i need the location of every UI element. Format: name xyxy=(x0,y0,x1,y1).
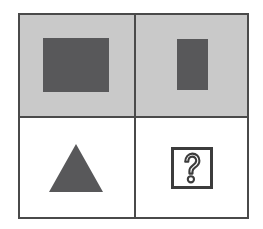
rectangle-shape xyxy=(177,39,208,90)
matrix-cell-bottom-right[interactable] xyxy=(134,116,248,217)
square-shape xyxy=(43,38,109,92)
matrix-cell-top-right[interactable] xyxy=(134,15,248,116)
question-mark-icon xyxy=(180,152,204,184)
matrix-cell-bottom-left[interactable] xyxy=(20,116,134,217)
matrix-grid xyxy=(18,13,249,219)
triangle-shape xyxy=(49,144,103,192)
matrix-cell-top-left[interactable] xyxy=(20,15,134,116)
answer-placeholder-box[interactable] xyxy=(171,147,213,189)
figure-canvas xyxy=(0,0,263,229)
